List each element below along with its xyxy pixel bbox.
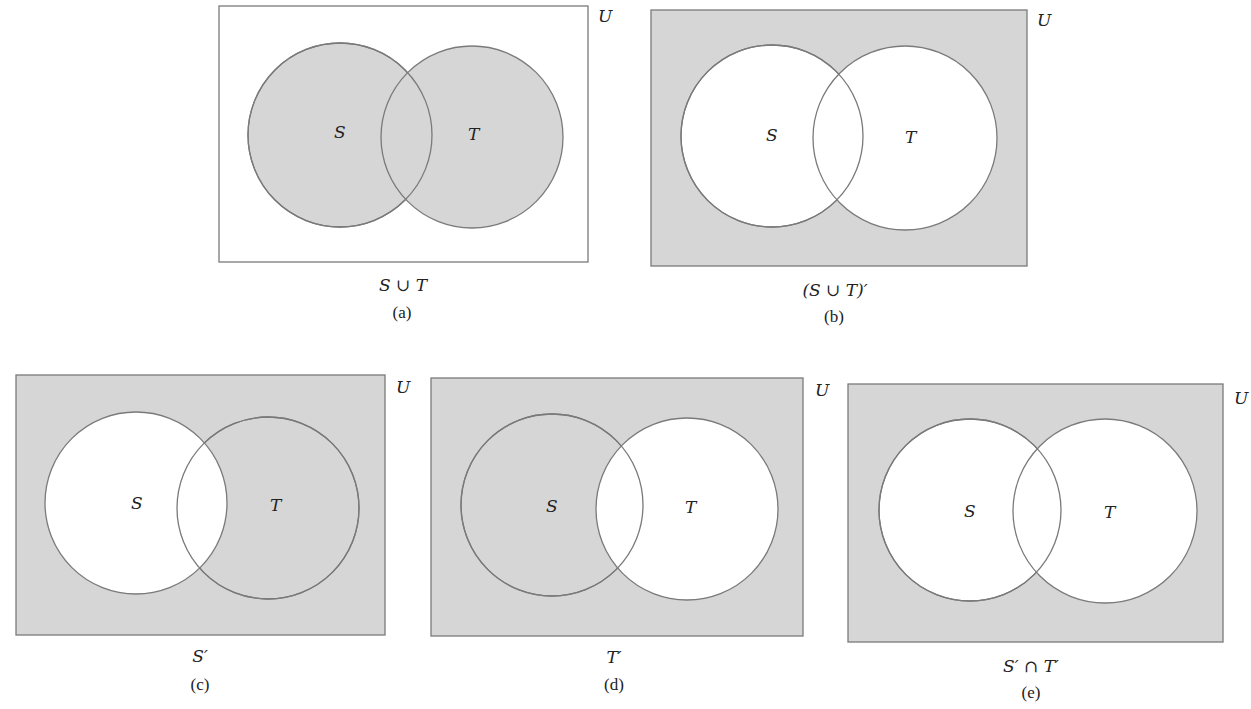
venn-diagram-d: S T U T′ (d) xyxy=(431,378,830,694)
set-t-label: T xyxy=(270,495,283,515)
universe-label: U xyxy=(396,377,411,397)
set-expression: (S ∪ T)′ xyxy=(802,280,867,300)
set-expression: T′ xyxy=(606,647,621,667)
set-s-label: S xyxy=(546,496,558,516)
set-expression: S′ ∩ T′ xyxy=(1003,656,1059,676)
set-t-label: T xyxy=(685,497,698,517)
universe-label: U xyxy=(815,380,830,400)
set-expression: S ∪ T xyxy=(379,275,429,295)
universe-label: U xyxy=(598,6,613,26)
diagram-caption: (b) xyxy=(824,307,844,326)
set-s-label: S xyxy=(131,493,143,513)
diagram-caption: (d) xyxy=(604,675,624,694)
venn-diagram-c: S T U S′ (c) xyxy=(16,375,411,694)
venn-diagram-a: S T U S ∪ T (a) xyxy=(219,6,613,322)
diagram-caption: (e) xyxy=(1022,683,1041,702)
set-t-label: T xyxy=(468,124,481,144)
venn-diagram-b: S T U (S ∪ T)′ (b) xyxy=(651,10,1052,326)
set-s-label: S xyxy=(964,501,976,521)
set-s-label: S xyxy=(766,125,778,145)
set-expression: S′ xyxy=(192,646,208,666)
diagram-caption: (a) xyxy=(393,303,412,322)
set-t-label: T xyxy=(1104,502,1117,522)
universe-label: U xyxy=(1234,388,1249,408)
universe-label: U xyxy=(1037,10,1052,30)
set-s-label: S xyxy=(334,122,346,142)
diagram-caption: (c) xyxy=(191,675,210,694)
venn-diagram-e: S T U S′ ∩ T′ (e) xyxy=(848,384,1249,702)
set-t-label: T xyxy=(905,127,918,147)
